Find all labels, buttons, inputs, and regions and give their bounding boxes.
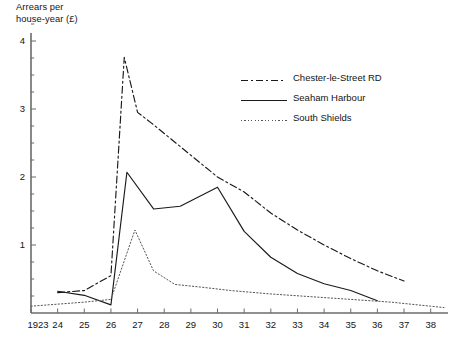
x-tick-label: 36: [362, 319, 392, 330]
x-tick-label: 28: [149, 319, 179, 330]
x-tick-label: 31: [229, 319, 259, 330]
x-tick-label: 34: [309, 319, 339, 330]
y-tick-label: 2: [9, 171, 25, 182]
legend-item-seaham-harbour: Seaham Harbour: [241, 90, 441, 110]
legend-label: Chester-le-Street RD: [293, 72, 382, 83]
legend-item-south-shields: South Shields: [241, 110, 441, 130]
x-tick-label: 38: [416, 319, 446, 330]
chart-legend: Chester-le-Street RD Seaham Harbour Sout…: [241, 70, 441, 130]
x-tick-label: 26: [96, 319, 126, 330]
x-tick-label: 25: [69, 319, 99, 330]
x-tick-label: 37: [389, 319, 419, 330]
x-tick-label: 32: [256, 319, 286, 330]
y-tick-label: 4: [9, 35, 25, 46]
plot-area: [0, 0, 460, 345]
x-tick-label: 33: [282, 319, 312, 330]
legend-label: South Shields: [293, 112, 352, 123]
y-tick-label: 3: [9, 103, 25, 114]
x-tick-label: 35: [336, 319, 366, 330]
legend-label: Seaham Harbour: [293, 92, 365, 103]
y-tick-label: 1: [9, 239, 25, 250]
x-tick-label: 29: [176, 319, 206, 330]
legend-item-chester-le-street-rd: Chester-le-Street RD: [241, 70, 441, 90]
legend-line-dotted-icon: [241, 120, 287, 121]
series-line-seaham-harbour: [58, 172, 378, 305]
x-tick-label: 24: [43, 319, 73, 330]
legend-line-solid-icon: [241, 100, 287, 101]
chart-figure: Arrears per house-year (£) Chester-le-St…: [0, 0, 460, 345]
x-tick-label: 27: [123, 319, 153, 330]
x-tick-label: 30: [203, 319, 233, 330]
legend-line-dash-dot-icon: [241, 80, 287, 81]
series-line-south-shields: [31, 230, 444, 308]
